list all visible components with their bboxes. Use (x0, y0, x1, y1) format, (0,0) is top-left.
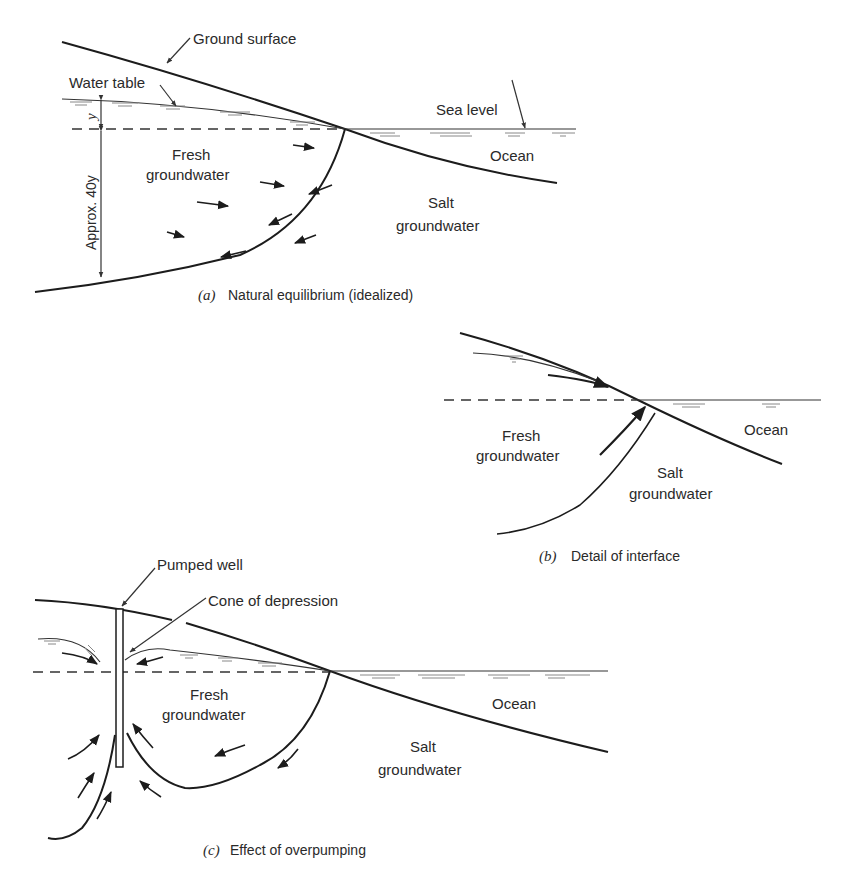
caption-c-letter: (c) (203, 842, 220, 859)
ground-surface-line-c2 (186, 623, 608, 752)
ground-surface-leader (167, 38, 190, 63)
panel-b-detail-of-interface: Fresh groundwater Salt groundwater Ocean… (444, 333, 821, 565)
water-table-label: Water table (69, 74, 145, 91)
sea-level-leader (512, 80, 525, 128)
ocean-label-c: Ocean (492, 695, 536, 712)
sea-hatch-b (673, 404, 780, 407)
fresh-flow-arrow-up (600, 407, 645, 455)
sea-hatch (370, 133, 575, 136)
salt-label-b-1: Salt (657, 464, 684, 481)
fresh-label-2: groundwater (146, 166, 229, 183)
panel-c-effect-of-overpumping: Pumped well Cone of depression Fresh gro… (33, 556, 608, 859)
caption-b-text: Detail of interface (571, 548, 680, 564)
water-table-leader (160, 85, 176, 106)
sea-hatch-c (360, 675, 590, 678)
ocean-label: Ocean (490, 147, 534, 164)
ocean-label-b: Ocean (744, 421, 788, 438)
cone-label: Cone of depression (208, 592, 338, 609)
ground-surface-line-c (35, 600, 172, 620)
salt-label-c-1: Salt (410, 738, 437, 755)
coastal-aquifer-diagram: y Approx. 40y Ground surface Water table… (0, 0, 848, 886)
fresh-label-b-1: Fresh (502, 427, 540, 444)
water-table-left-c (38, 638, 100, 662)
panel-a-natural-equilibrium: y Approx. 40y Ground surface Water table… (35, 30, 576, 304)
interface-line-c (127, 671, 330, 788)
water-table-hatch (70, 102, 315, 125)
salt-label-2: groundwater (396, 217, 479, 234)
pumped-well (116, 609, 123, 767)
fresh-label-c-1: Fresh (190, 686, 228, 703)
ground-surface-line-b (460, 333, 782, 464)
fresh-label-c-2: groundwater (162, 706, 245, 723)
caption-a-letter: (a) (198, 287, 216, 304)
ground-surface-label: Ground surface (193, 30, 296, 47)
caption-c-text: Effect of overpumping (230, 842, 366, 858)
salt-label-c-2: groundwater (378, 761, 461, 778)
pumped-well-leader (122, 568, 155, 606)
flow-arrows-c (62, 653, 298, 819)
salt-label-1: Salt (428, 194, 455, 211)
salt-label-b-2: groundwater (629, 485, 712, 502)
fresh-label-b-2: groundwater (476, 447, 559, 464)
caption-a-text: Natural equilibrium (idealized) (228, 287, 413, 303)
pumped-well-label: Pumped well (157, 556, 243, 573)
fresh-label-1: Fresh (172, 146, 210, 163)
caption-b-letter: (b) (539, 548, 557, 565)
sea-level-label: Sea level (436, 101, 498, 118)
y-label: y (83, 113, 99, 122)
approx-40y-label: Approx. 40y (83, 175, 99, 250)
